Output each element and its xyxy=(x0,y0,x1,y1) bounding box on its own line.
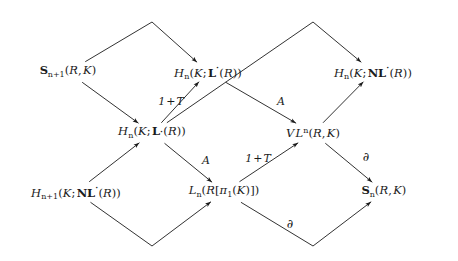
open-paren: ( xyxy=(202,183,207,197)
open-paren: ( xyxy=(58,186,63,200)
semicolon: ; xyxy=(71,186,75,200)
close-paren: ) xyxy=(255,183,260,197)
close-paren: ) xyxy=(181,124,186,138)
open-paren: ( xyxy=(189,66,194,80)
node-s-top-left: Sn+1(R, K) xyxy=(40,65,97,78)
comma: , xyxy=(322,126,326,140)
blackboard-l-glyph: L xyxy=(152,124,160,138)
open-paren: ( xyxy=(133,124,138,138)
close-paren: ) xyxy=(116,186,121,200)
inner-open: ( xyxy=(232,183,237,197)
blackboard-s-glyph: S xyxy=(40,63,48,77)
blackboard-l-glyph: L xyxy=(208,66,216,80)
edge-label-a-lower: A xyxy=(202,155,210,166)
close-paren: ) xyxy=(407,66,412,80)
inner-open: ( xyxy=(389,66,394,80)
node-h-nl-upper: Hn(K; NL·(R)) xyxy=(334,63,412,81)
blackboard-s-glyph: S xyxy=(362,183,370,197)
blackboard-nl-glyph: NL xyxy=(77,186,95,200)
node-h-l-upper: Hn(K; L·(R)) xyxy=(174,63,242,81)
blackboard-nl-glyph: NL xyxy=(368,66,386,80)
inner-open: ( xyxy=(219,66,224,80)
inner-open: ( xyxy=(98,186,103,200)
subscript-n-plus-1: n+1 xyxy=(41,192,58,201)
subscript-n-plus-1: n+1 xyxy=(48,70,65,79)
close-paren: ) xyxy=(336,126,341,140)
comma: , xyxy=(78,63,82,77)
edge-s-top-left-to-h-l-lower xyxy=(83,83,139,124)
edge-h-l-upper-to-vl xyxy=(226,83,296,124)
edge-vl-to-h-nl-upper xyxy=(323,82,363,123)
node-h-l-lower: Hn(K; L·(R)) xyxy=(118,126,186,139)
edge-l-group-ring-to-s-bottom xyxy=(241,202,371,246)
close-paren: ) xyxy=(402,183,407,197)
open-paren: ( xyxy=(308,126,313,140)
plus-sign: + xyxy=(252,152,263,165)
edge-label-a-upper: A xyxy=(277,96,285,107)
diagram-canvas: Sn+1(R, K) Hn(K; L·(R)) Hn(K; NL·(R)) Hn… xyxy=(0,0,458,261)
arrow-layer xyxy=(0,0,458,261)
node-h-nl-bottom: Hn+1(K; NL·(R)) xyxy=(31,183,121,201)
semicolon: ; xyxy=(203,66,207,80)
edge-s-top-left-to-h-l-upper xyxy=(86,22,197,62)
edge-label-one-plus-t-lower: 1+T xyxy=(245,153,271,164)
node-args: ( xyxy=(65,63,70,77)
edge-h-nl-bottom-to-h-l-lower xyxy=(90,143,140,182)
edge-label-one-plus-t-upper: 1+T xyxy=(158,96,184,107)
inner-open: ( xyxy=(163,124,168,138)
edge-h-nl-bottom-to-l-group-ring xyxy=(91,202,211,246)
close-paren: ) xyxy=(92,63,97,77)
comma: , xyxy=(388,183,392,197)
node-s-bottom: Sn(R, K) xyxy=(362,185,407,198)
edge-label-partial-bottom: ∂ xyxy=(287,218,293,231)
open-paren: ( xyxy=(375,183,380,197)
semicolon: ; xyxy=(147,124,151,138)
close-paren: ) xyxy=(237,66,242,80)
semicolon: ; xyxy=(363,66,367,80)
open-bracket: [ xyxy=(215,183,220,197)
open-paren: ( xyxy=(349,66,354,80)
plus-sign: + xyxy=(165,95,176,108)
node-vl: V Ln(R, K) xyxy=(286,127,340,140)
node-l-group-ring: Ln(R[π1(K)]) xyxy=(189,185,260,198)
edge-label-partial-right: ∂ xyxy=(363,151,369,164)
